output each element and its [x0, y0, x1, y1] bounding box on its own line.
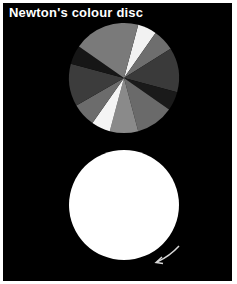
figure-canvas — [0, 0, 237, 284]
spinning-white-disc — [69, 150, 179, 260]
rotation-arrow-icon — [156, 246, 179, 264]
colour-disc — [69, 23, 179, 133]
